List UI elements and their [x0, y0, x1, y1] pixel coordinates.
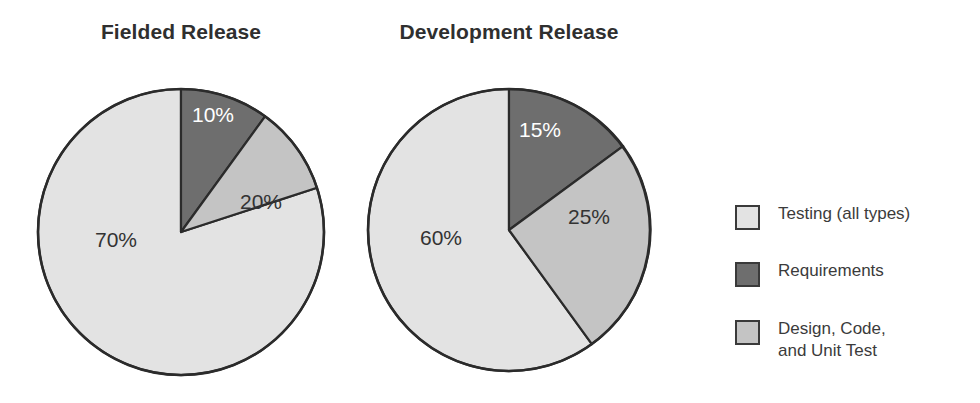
- legend-label-testing: Testing (all types): [778, 203, 910, 225]
- chart-title-development-release: Development Release: [368, 20, 650, 44]
- pie-value-label-requirements-development: 15%: [519, 118, 561, 142]
- legend-swatch-design-code-icon: [735, 320, 760, 345]
- pie-chart-development-release: [358, 76, 660, 386]
- legend-item-testing: Testing (all types): [735, 203, 910, 230]
- legend-swatch-requirements-icon: [735, 262, 760, 287]
- pie-svg-development-release: [358, 76, 660, 386]
- pie-value-label-design-code-fielded: 20%: [240, 190, 282, 214]
- pie-chart-fielded-release: [30, 78, 332, 388]
- pie-value-label-testing-fielded: 70%: [95, 228, 137, 252]
- legend-label-requirements: Requirements: [778, 260, 884, 282]
- chart-title-fielded-release: Fielded Release: [41, 20, 321, 44]
- legend-item-design-code: Design, Code, and Unit Test: [735, 318, 886, 362]
- pie-value-label-design-code-development: 25%: [568, 205, 610, 229]
- legend-item-requirements: Requirements: [735, 260, 884, 287]
- legend-label-design-code: Design, Code, and Unit Test: [778, 318, 886, 362]
- pie-value-label-requirements-fielded: 10%: [192, 103, 234, 127]
- pie-value-label-testing-development: 60%: [420, 226, 462, 250]
- pie-chart-figure: Fielded Release 10% 20% 70% Development …: [0, 0, 980, 403]
- pie-svg-fielded-release: [30, 78, 332, 388]
- legend-swatch-testing-icon: [735, 205, 760, 230]
